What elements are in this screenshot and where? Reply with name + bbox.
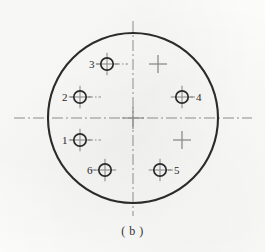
pin-2[interactable]: [69, 86, 91, 108]
position-mark-upper-right: [149, 55, 167, 73]
pin-1[interactable]: [69, 129, 91, 151]
connector-pin-layout-diagram: [0, 0, 265, 252]
figure-root: 123456 ( b ): [0, 0, 265, 252]
center-crosshair-group: [122, 107, 144, 129]
pin-6[interactable]: [94, 159, 116, 181]
pin-5[interactable]: [149, 159, 171, 181]
pin-3[interactable]: [96, 53, 118, 75]
position-mark-lower-right: [173, 131, 191, 149]
pin-group: [69, 53, 193, 181]
pin-4[interactable]: [171, 86, 193, 108]
